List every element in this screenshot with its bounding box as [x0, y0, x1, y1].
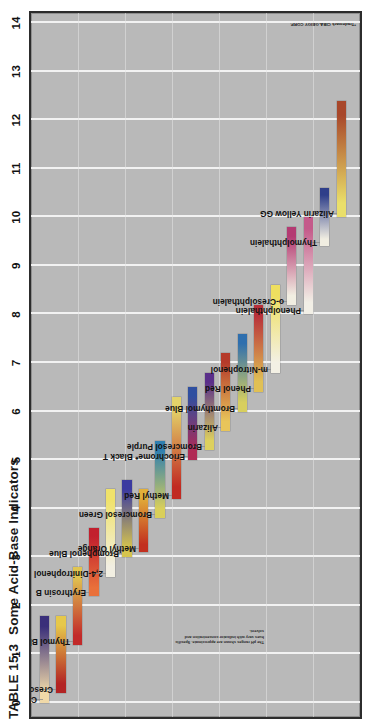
gridline-ph-12: [31, 118, 360, 120]
indicator-label: Thymol Blue: [29, 637, 70, 647]
axis-tick-4: 4: [10, 506, 22, 512]
indicator-label: m-Nitrophenol: [210, 365, 267, 375]
indicator-bar: [337, 101, 346, 218]
indicator-label: Erythrosin B: [36, 588, 86, 598]
indicator-label: Alizarin: [188, 423, 218, 433]
indicator-label: 2,4-Dinitrophenol: [34, 569, 103, 579]
axis-tick-8: 8: [10, 311, 22, 317]
indicator-bar: [254, 305, 263, 392]
gridline-ph-13: [31, 70, 360, 72]
axis-tick-0: 0: [10, 700, 22, 706]
trademark-credit: *Trademark CIBA-GEIGY CORP.: [290, 22, 356, 27]
chart-frame: Crystal VioletCresol RedThymol BlueEryth…: [29, 11, 362, 719]
chart-plot-area: Crystal VioletCresol RedThymol BlueEryth…: [31, 13, 360, 717]
indicator-label: Phenol Red: [205, 384, 251, 394]
axis-tick-14: 14: [10, 17, 22, 30]
gridline-horizontal: [172, 13, 173, 717]
axis-tick-10: 10: [10, 211, 22, 224]
axis-tick-9: 9: [10, 263, 22, 269]
figure-stage: TABLE 15.3 Some Acid-Base Indicators 012…: [0, 0, 370, 727]
indicator-bar: [304, 217, 313, 314]
indicator-label: Thymolphthalein: [250, 238, 317, 248]
axis-tick-11: 11: [10, 163, 22, 175]
gridline-ph-1: [31, 652, 360, 654]
indicator-label: Crystal Violet: [29, 695, 37, 705]
indicator-bar: [56, 616, 65, 694]
indicator-bar: [106, 489, 115, 576]
indicator-label: Bromcresol Green: [79, 510, 152, 520]
indicator-label: Methyl Orange: [78, 544, 136, 554]
gridline-ph-0: [31, 701, 360, 703]
axis-tick-12: 12: [10, 114, 22, 127]
indicator-label: Bromcresol Purple: [127, 442, 202, 452]
axis-tick-1: 1: [10, 651, 22, 657]
gridline-horizontal: [313, 13, 314, 717]
indicator-label: Bromthymol Blue: [165, 404, 235, 414]
axis-tick-5: 5: [10, 457, 22, 463]
gridline-horizontal: [125, 13, 126, 717]
figure-page: TABLE 15.3 Some Acid-Base Indicators 012…: [0, 0, 370, 727]
axis-tick-3: 3: [10, 554, 22, 560]
axis-tick-2: 2: [10, 603, 22, 609]
indicator-label: Eriochrome* Black T: [103, 452, 185, 462]
gridline-ph-11: [31, 167, 360, 169]
indicator-bar: [89, 528, 98, 596]
indicator-label: Methyl Red: [124, 491, 169, 501]
figure-footnote: The pH ranges shown are approximate. Spe…: [172, 629, 264, 645]
indicator-label: Alizarin Yellow GG: [259, 209, 333, 219]
indicator-label: Phenolphthalein: [235, 306, 300, 316]
axis-tick-13: 13: [10, 65, 22, 78]
gridline-ph-4: [31, 507, 360, 509]
indicator-label: Cresol Red: [29, 685, 53, 695]
axis-tick-6: 6: [10, 408, 22, 414]
ph-axis-ticks: 01234567891011121314: [10, 11, 26, 719]
axis-tick-7: 7: [10, 360, 22, 366]
gridline-ph-7: [31, 361, 360, 363]
